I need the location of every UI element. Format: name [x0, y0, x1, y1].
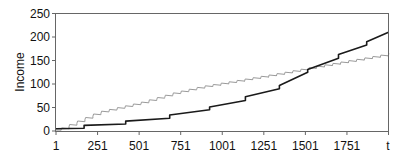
x-tick-label: 1	[53, 139, 60, 153]
income-chart: Income 050100150200250 12515017511001125…	[0, 0, 407, 158]
y-tick-label: 200	[30, 30, 50, 44]
x-tick-label: 751	[171, 139, 191, 153]
x-tick-label: 1751	[334, 139, 361, 153]
plot-frame	[56, 14, 389, 132]
y-axis-label: Income	[13, 52, 27, 92]
y-tick-label: 100	[30, 77, 50, 91]
y-tick-label: 0	[43, 124, 50, 138]
x-tick-label: 251	[88, 139, 108, 153]
gray-sawtooth-line	[56, 54, 389, 131]
x-tick-label: 1001	[209, 139, 236, 153]
x-tick-label: 1251	[250, 139, 277, 153]
y-tick-label: 50	[37, 101, 51, 115]
plot-series	[56, 32, 389, 130]
x-axis-label: t	[386, 139, 390, 153]
x-axis: 12515017511001125115011751	[53, 131, 389, 153]
y-tick-label: 150	[30, 54, 50, 68]
x-tick-label: 1501	[292, 139, 319, 153]
black-step-line	[56, 32, 389, 128]
y-axis-title: Income	[13, 52, 27, 92]
y-axis: 050100150200250	[30, 7, 56, 139]
y-tick-label: 250	[30, 7, 50, 21]
x-tick-label: 501	[129, 139, 149, 153]
